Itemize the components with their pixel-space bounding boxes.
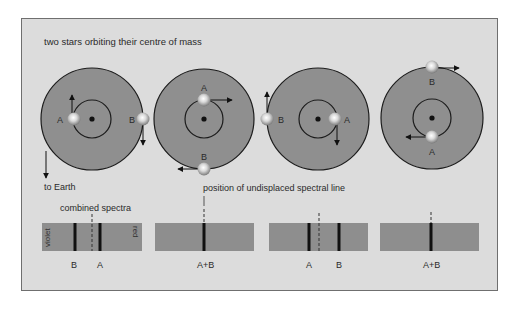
spectral-line-a (99, 223, 102, 251)
spectral-line-b (338, 223, 341, 251)
spectrum-label: A (97, 260, 103, 270)
star-a-label: A (429, 147, 435, 157)
star-b-label: B (129, 115, 135, 125)
centre-of-mass-dot (429, 115, 434, 120)
star-b (426, 61, 439, 74)
star-a (68, 113, 81, 126)
star-a (426, 131, 439, 144)
star-a-label: A (57, 115, 63, 125)
combined-spectra-label: combined spectra (60, 203, 131, 213)
red-label: red (131, 226, 140, 238)
diagram-title: two stars orbiting their centre of mass (44, 36, 202, 47)
spectrum-label: B (336, 260, 342, 270)
to-earth-label: to Earth (44, 182, 76, 192)
centre-of-mass-dot (89, 116, 94, 121)
star-a-label: A (344, 115, 350, 125)
star-b-label: B (278, 115, 284, 125)
star-b-label: B (201, 152, 207, 162)
binary-star-doppler-diagram: two stars orbiting their centre of mass … (0, 0, 515, 310)
spectrum-label: A+B (197, 260, 214, 270)
spectrum-band (269, 223, 368, 251)
spectral-line-ab (203, 223, 206, 251)
spectral-line-a (308, 223, 311, 251)
star-b (198, 163, 211, 176)
spectrum-label: B (71, 260, 77, 270)
star-b (261, 113, 274, 126)
centre-of-mass-dot (201, 116, 206, 121)
centre-of-mass-dot (315, 116, 320, 121)
spectrum-label: A (306, 260, 312, 270)
star-b (137, 113, 150, 126)
star-a-label: A (201, 83, 207, 93)
violet-label: violet (43, 228, 52, 247)
star-a (329, 113, 342, 126)
star-b-label: B (429, 77, 435, 87)
spectrum-label: A+B (423, 260, 440, 270)
undisplaced-line-label: position of undisplaced spectral line (203, 183, 345, 193)
spectral-line-b (74, 223, 77, 251)
spectral-line-ab (430, 223, 433, 251)
star-a (198, 94, 211, 107)
